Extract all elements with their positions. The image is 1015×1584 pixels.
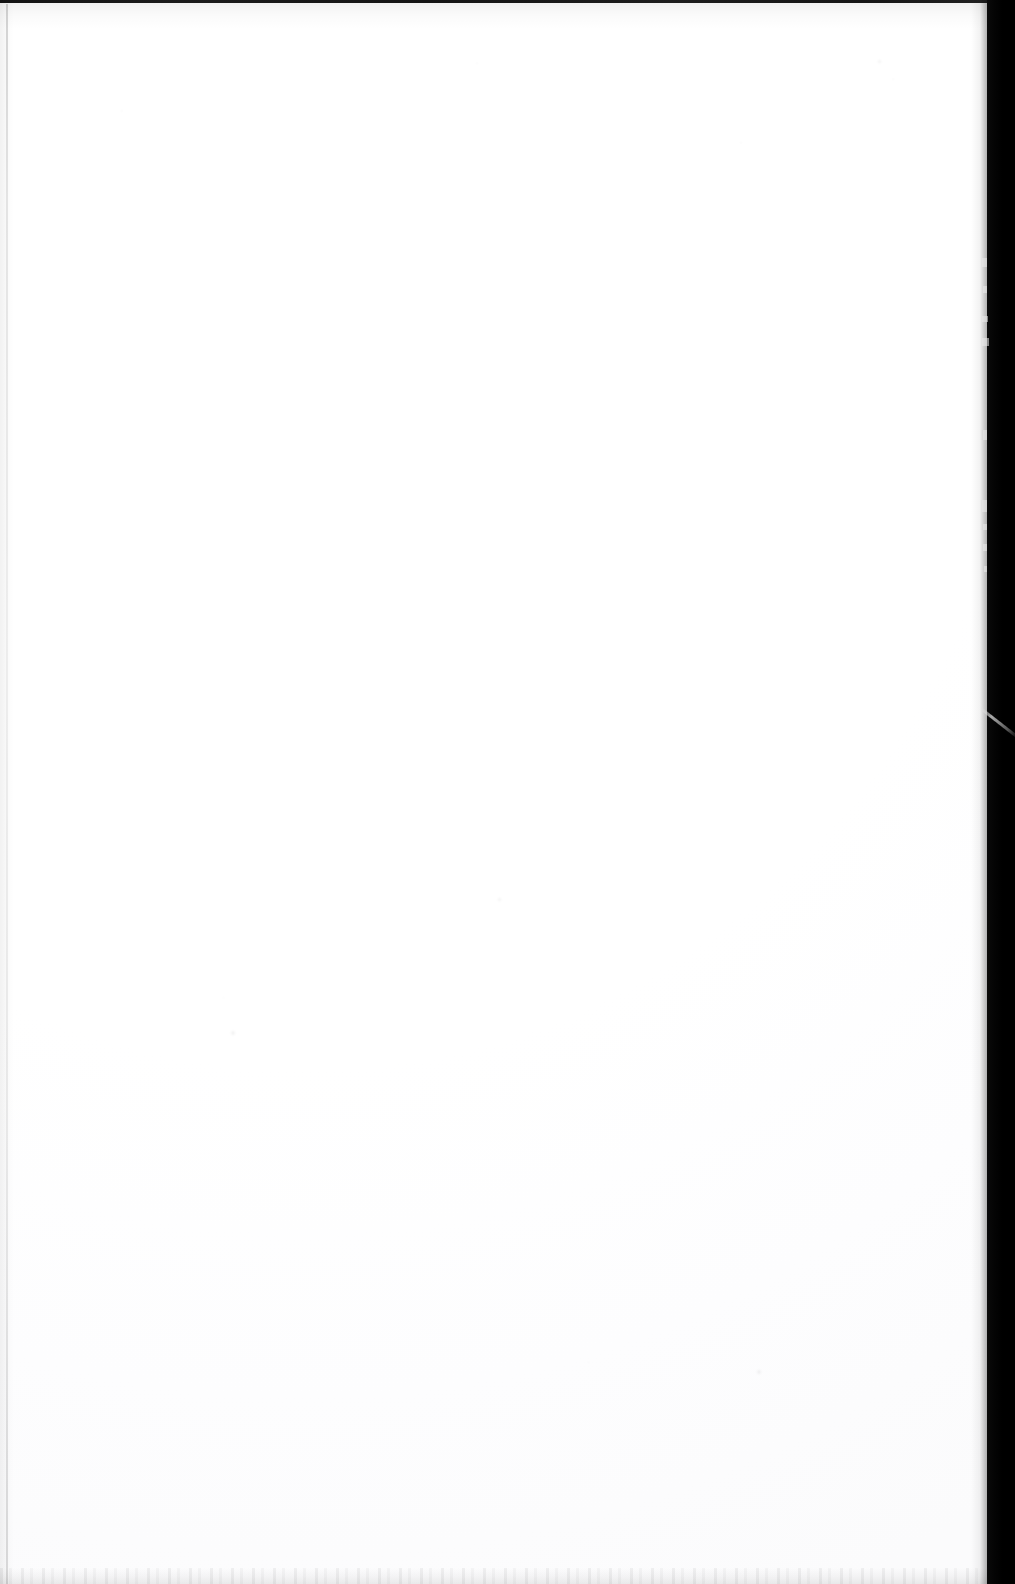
dust-speck xyxy=(878,60,881,63)
dust-speck xyxy=(498,898,501,901)
gutter-edge-nick xyxy=(983,524,987,530)
gutter-edge-nick xyxy=(982,500,987,512)
right-gutter-shadow xyxy=(987,0,1015,1584)
page-content-area xyxy=(40,60,940,1510)
gutter-edge-nick xyxy=(984,566,987,572)
left-margin-line xyxy=(6,4,8,1584)
dust-speck xyxy=(231,1031,235,1035)
gutter-edge-nick xyxy=(982,258,987,267)
gutter-shadow-falloff xyxy=(971,0,987,1584)
scanned-page xyxy=(0,0,1015,1584)
top-edge-haze xyxy=(0,3,1015,29)
gutter-edge-nick xyxy=(983,286,987,293)
gutter-edge-nick xyxy=(982,338,989,346)
gutter-edge-nick xyxy=(983,544,987,551)
gutter-edge-nick xyxy=(983,430,987,440)
bottom-speckle-band xyxy=(0,1568,1015,1584)
dust-speck xyxy=(757,1370,761,1374)
gutter-edge-nick xyxy=(982,316,988,322)
